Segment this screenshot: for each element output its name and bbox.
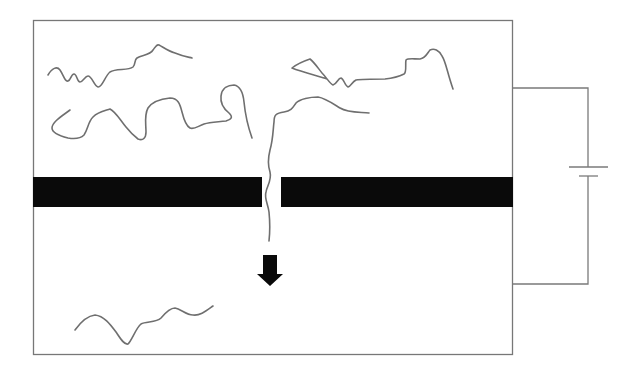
upper-chain-1 xyxy=(48,45,192,87)
circuit-wire-top xyxy=(513,88,588,167)
diagram-canvas xyxy=(0,0,627,370)
diagram-svg xyxy=(0,0,627,370)
membrane-right xyxy=(281,177,513,207)
arrow-down-icon xyxy=(257,255,283,286)
translocating-chain xyxy=(265,97,369,241)
upper-chain-3 xyxy=(292,49,453,89)
membrane-left xyxy=(33,177,262,207)
battery-icon xyxy=(569,167,608,176)
upper-chain-2 xyxy=(52,85,252,140)
lower-chain xyxy=(75,306,213,344)
circuit-wire-bottom xyxy=(513,176,588,284)
